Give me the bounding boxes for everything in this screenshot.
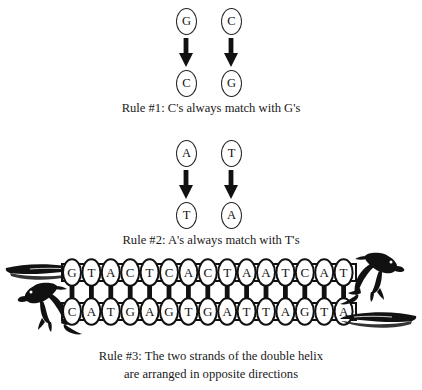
top-strand-bases: GTACTCACTAATCAT <box>63 259 353 285</box>
top-base-letter: A <box>242 265 252 280</box>
rule-1-col-2-source-base: C <box>221 8 242 35</box>
bottom-base-letter: T <box>320 304 328 319</box>
down-arrow-icon <box>175 38 197 68</box>
bottom-base-letter: G <box>300 304 309 319</box>
rule-1-col-2-target-base: G <box>221 70 242 97</box>
top-base-letter: A <box>106 265 116 280</box>
rule-1-col-1-target-base: C <box>176 70 197 97</box>
top-base-letter: A <box>261 265 271 280</box>
top-base-letter: A <box>320 265 330 280</box>
rule-2-col-1-source-base: A <box>176 140 197 167</box>
bottom-base-letter: G <box>203 304 212 319</box>
top-base-letter: C <box>203 265 212 280</box>
rule-2-col-2-source-base: T <box>221 140 242 167</box>
figure-canvas: G C C G Rule #1: C's always match with G… <box>0 0 422 390</box>
down-arrow-icon <box>175 170 197 200</box>
top-base-letter: C <box>126 265 135 280</box>
rule-1-pair-diagram: G C C G <box>0 8 422 96</box>
rule-3-caption-line-1: Rule #3: The two strands of the double h… <box>0 347 422 365</box>
bottom-base-letter: A <box>145 304 155 319</box>
bottom-base-letter: A <box>281 304 291 319</box>
helix-svg: GTACTCACTAATCAT CATGAGTGATTAGTA <box>0 246 422 346</box>
top-base-letter: T <box>223 265 231 280</box>
down-arrow-icon <box>220 170 242 200</box>
bottom-base-letter: A <box>223 304 233 319</box>
top-base-letter: A <box>184 265 194 280</box>
top-base-letter: T <box>340 265 348 280</box>
rule-3-caption-line-2: are arranged in opposite directions <box>0 365 422 383</box>
bottom-base-letter: T <box>262 304 270 319</box>
bottom-base-letter: T <box>184 304 192 319</box>
rule-3-caption: Rule #3: The two strands of the double h… <box>0 347 422 384</box>
rule-2-col-1-target-base: T <box>176 202 197 229</box>
rule-2-pair-diagram: A T T A <box>0 140 422 228</box>
top-base-letter: C <box>165 265 174 280</box>
bottom-base-letter: G <box>164 304 173 319</box>
rule-2-block: A T T A Rule #2: A's always match with T… <box>0 140 422 228</box>
top-base-letter: T <box>146 265 154 280</box>
rule-1-caption: Rule #1: C's always match with G's <box>0 100 422 117</box>
top-base-letter: T <box>281 265 289 280</box>
top-base-letter: T <box>87 265 95 280</box>
down-arrow-icon <box>220 38 242 68</box>
bottom-base-letter: G <box>126 304 135 319</box>
bottom-base-letter: T <box>107 304 115 319</box>
rule-1-col-1-source-base: G <box>176 8 197 35</box>
double-helix-diagram: GTACTCACTAATCAT CATGAGTGATTAGTA <box>0 246 422 346</box>
bottom-base-letter: T <box>243 304 251 319</box>
top-base-letter: C <box>300 265 309 280</box>
top-base-letter: G <box>67 265 76 280</box>
rule-2-col-2-target-base: A <box>221 202 242 229</box>
rule-1-block: G C C G Rule #1: C's always match with G… <box>0 8 422 96</box>
bottom-strand-bases: CATGAGTGATTAGTA <box>63 298 353 324</box>
bottom-base-letter: C <box>68 304 77 319</box>
bottom-base-letter: A <box>87 304 97 319</box>
